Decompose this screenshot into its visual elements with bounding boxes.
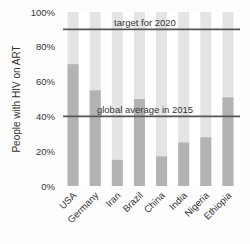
y-axis-label: People with HIV on ART [11,45,22,152]
x-tick-label: Brazil [120,190,145,215]
bar-india [178,143,189,187]
bar-usa [68,64,79,186]
y-tick-label: 40% [36,111,56,122]
bar-iran [112,160,123,186]
bar-china [156,156,167,186]
y-tick-label: 20% [36,146,56,157]
x-tick-label: China [142,189,168,215]
y-tick-label: 0% [41,181,55,192]
plot-area: 0%20%40%60%80%100%USAGermanyIranBrazilCh… [31,7,240,226]
bar-nigeria [200,137,211,186]
y-tick-label: 60% [36,76,56,87]
reference-line-label: global average in 2015 [97,104,193,115]
reference-line-label: target for 2020 [114,17,176,28]
plot-background [63,12,240,186]
chart: 0%20%40%60%80%100%USAGermanyIranBrazilCh… [0,0,250,244]
y-tick-label: 80% [36,41,56,52]
bar-ethiopia [222,97,233,186]
y-tick-label: 100% [31,7,56,18]
